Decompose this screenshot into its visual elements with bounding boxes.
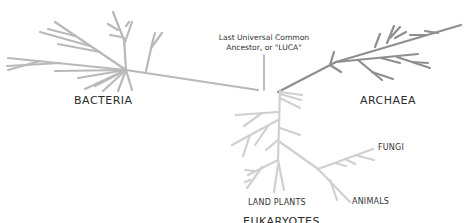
luca-label: Last Universal Common Ancestor, or "LUCA… — [214, 33, 314, 53]
luca-label-line-2: Ancestor, or "LUCA" — [214, 43, 314, 53]
bacteria-label: BACTERIA — [74, 94, 133, 107]
eukaryote-branches — [232, 90, 374, 202]
archaea-label: ARCHAEA — [360, 94, 416, 107]
fungi-label: FUNGI — [378, 143, 404, 152]
animals-label: ANIMALS — [352, 197, 389, 206]
luca-label-line-1: Last Universal Common — [214, 33, 314, 43]
land-plants-label: LAND PLANTS — [248, 198, 306, 207]
eukaryotes-label: EUKARYOTES — [243, 215, 320, 223]
tree-of-life-diagram: Last Universal Common Ancestor, or "LUCA… — [0, 0, 473, 223]
